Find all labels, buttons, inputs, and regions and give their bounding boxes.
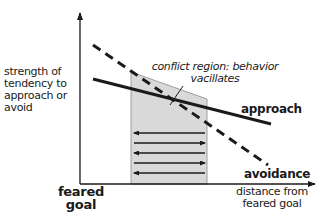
avoidance-label: avoidance (244, 168, 310, 180)
x-axis-label: distance from feared goal (218, 186, 326, 210)
conflict-region (131, 72, 207, 184)
approach-label: approach (241, 103, 302, 115)
origin-label: feared goal (56, 185, 106, 211)
conflict-annotation: conflict region: behavior vacillates (150, 61, 280, 85)
y-axis-label: strength of tendency to approach or avoi… (4, 66, 80, 114)
